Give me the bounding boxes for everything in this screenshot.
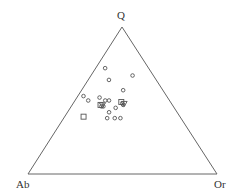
data-point-circle [121,88,125,92]
data-point-circle [98,96,102,100]
ternary-triangle [28,27,217,174]
data-point-circle [105,116,109,120]
ternary-diagram [0,0,238,196]
data-points [81,66,134,120]
vertex-label-or: Or [214,178,226,190]
vertex-label-q: Q [117,9,125,21]
data-point-circle [107,99,111,103]
data-point-square [81,114,86,119]
data-point-circle [114,106,118,110]
data-point-circle [82,94,86,98]
data-point-circle [107,78,111,82]
data-point-circle [131,74,135,78]
data-point-circle [86,99,90,103]
data-point-circle [113,116,117,120]
data-point-circle [103,66,107,70]
data-point-circle [107,110,111,114]
vertex-label-ab: Ab [16,178,29,190]
data-point-circle [103,99,107,103]
data-point-circle [119,116,123,120]
